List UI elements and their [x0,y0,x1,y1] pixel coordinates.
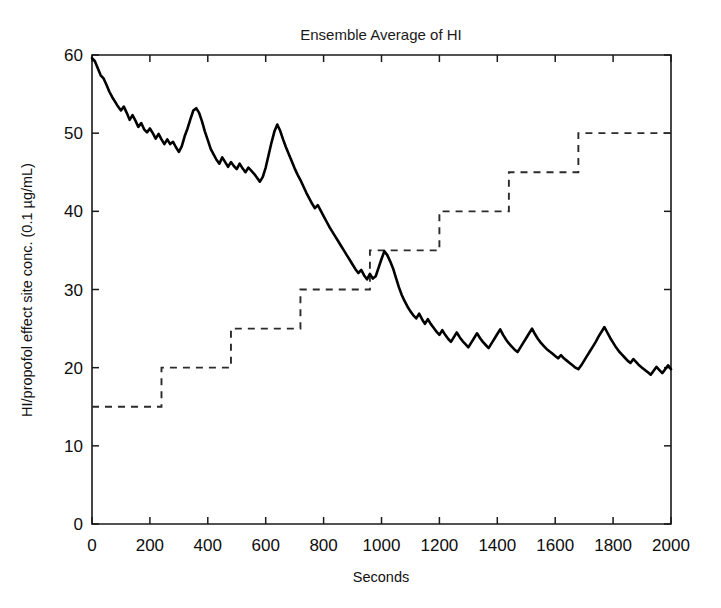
y-tick-label: 10 [64,437,83,456]
axis-frame [92,55,671,524]
y-tick-label: 20 [64,359,83,378]
x-tick-label: 1800 [594,536,632,555]
y-tick-label: 30 [64,281,83,300]
y-tick-label: 60 [64,46,83,65]
x-tick-group: 0200400600800100012001400160018002000 [87,55,690,555]
x-tick-label: 0 [87,536,96,555]
y-tick-label: 40 [64,202,83,221]
x-tick-label: 2000 [652,536,690,555]
x-tick-label: 1600 [536,536,574,555]
chart-canvas: Ensemble Average of HI 02004006008001000… [0,0,721,608]
chart-title: Ensemble Average of HI [300,26,461,43]
x-tick-label: 600 [252,536,280,555]
series-hi-ensemble [92,58,671,375]
axes-group [92,55,671,524]
series-propofol-step [92,133,671,407]
x-tick-label: 1000 [363,536,401,555]
y-tick-label: 0 [74,515,83,534]
x-tick-label: 800 [309,536,337,555]
series-group [92,58,671,407]
y-tick-label: 50 [64,124,83,143]
y-axis-label: HI/propofol effect site conc. (0.1 µg/mL… [19,163,35,417]
x-tick-label: 400 [194,536,222,555]
chart-figure: Ensemble Average of HI 02004006008001000… [0,0,721,608]
x-tick-label: 1200 [420,536,458,555]
chart-title-group: Ensemble Average of HI [300,26,461,43]
x-tick-label: 200 [136,536,164,555]
x-tick-label: 1400 [478,536,516,555]
x-axis-label: Seconds [353,569,409,585]
